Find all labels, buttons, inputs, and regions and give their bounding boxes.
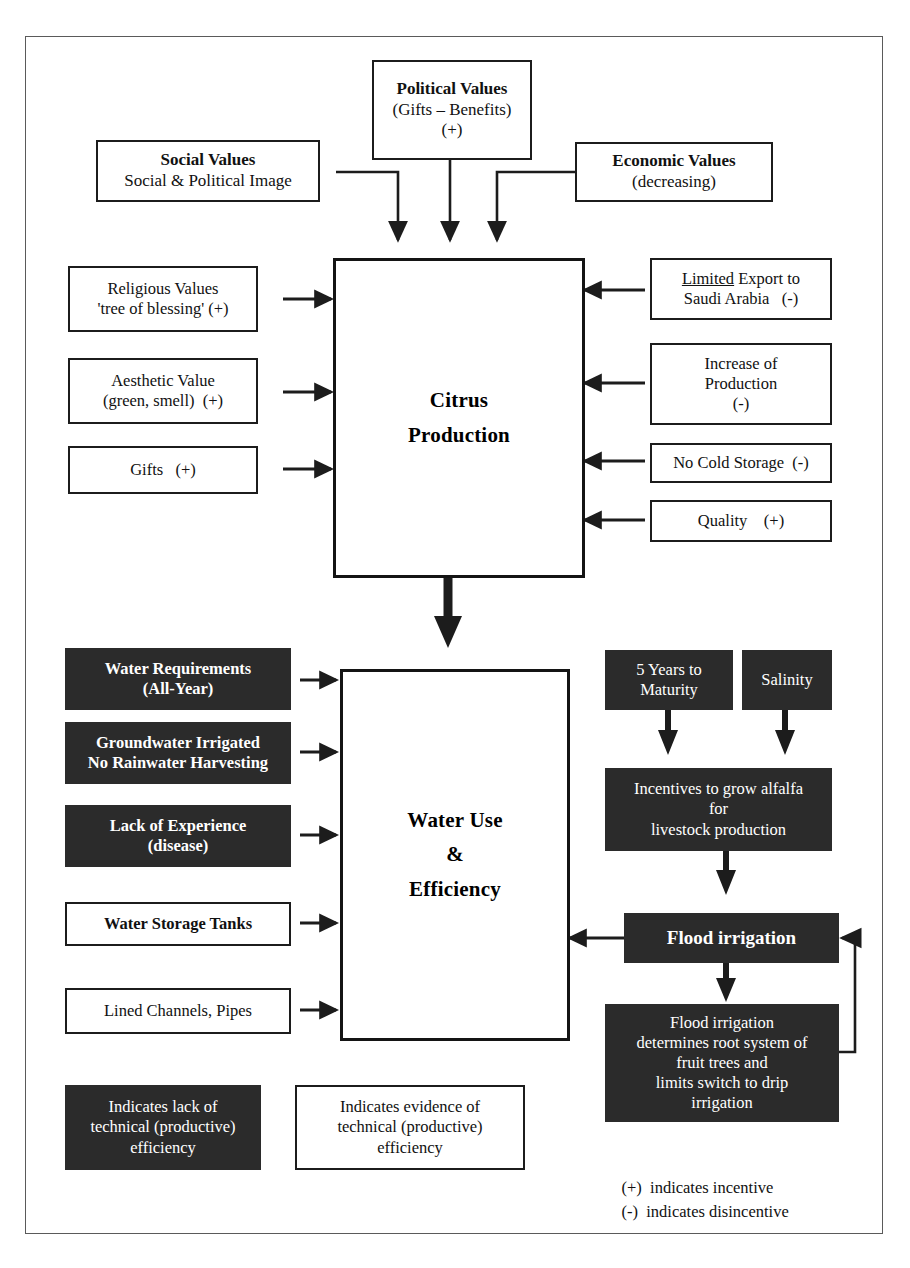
hub-line: Citrus <box>408 388 510 414</box>
box-line: Aesthetic Value <box>111 371 215 391</box>
box-water-storage-tanks[interactable]: Water Storage Tanks <box>65 902 291 946</box>
box-line: Indicates lack of <box>108 1097 217 1117</box>
box-line: (All-Year) <box>143 679 214 699</box>
box-line: Maturity <box>640 680 698 700</box>
box-line: for <box>709 799 728 819</box>
box-line: Limited Export to <box>682 269 800 289</box>
box-groundwater-irrigated[interactable]: Groundwater Irrigated No Rainwater Harve… <box>65 722 291 784</box>
box-line: Indicates evidence of <box>340 1097 480 1117</box>
box-line: limits switch to drip <box>656 1073 788 1093</box>
box-line: (green, smell) (+) <box>103 391 223 411</box>
hub-label: Citrus Production <box>408 379 510 457</box>
underlined-word: Limited <box>682 269 734 288</box>
box-increase-of-production[interactable]: Increase of Production (-) <box>650 343 832 425</box>
legend-dark-key: Indicates lack of technical (productive)… <box>65 1085 261 1170</box>
box-five-years-to-maturity[interactable]: 5 Years to Maturity <box>605 650 733 710</box>
box-line: technical (productive) <box>90 1117 235 1137</box>
box-line: technical (productive) <box>337 1117 482 1137</box>
box-gifts[interactable]: Gifts (+) <box>68 446 258 494</box>
box-flood-irrigation-effects[interactable]: Flood irrigation determines root system … <box>605 1004 839 1122</box>
box-religious-values[interactable]: Religious Values 'tree of blessing' (+) <box>68 266 258 332</box>
legend-note-line: (-) indicates disincentive <box>622 1202 789 1221</box>
box-line: livestock production <box>651 820 786 840</box>
box-political-values[interactable]: Political Values (Gifts – Benefits) (+) <box>372 60 532 160</box>
box-line: determines root system of <box>637 1033 808 1053</box>
box-line: Incentives to grow alfalfa <box>634 779 803 799</box>
box-line: Salinity <box>761 670 812 690</box>
box-incentives-alfalfa[interactable]: Incentives to grow alfalfa for livestock… <box>605 768 832 851</box>
hub-line: Water Use <box>407 808 502 834</box>
box-salinity[interactable]: Salinity <box>742 650 832 710</box>
box-line: irrigation <box>691 1093 752 1113</box>
box-line: No Cold Storage (-) <box>673 453 809 473</box>
box-line: Water Storage Tanks <box>104 914 252 934</box>
hub-line: Production <box>408 423 510 449</box>
box-line: Flood irrigation <box>667 926 796 949</box>
box-line: Lined Channels, Pipes <box>104 1001 252 1021</box>
legend-light-key: Indicates evidence of technical (product… <box>295 1085 525 1170</box>
box-water-requirements[interactable]: Water Requirements (All-Year) <box>65 648 291 710</box>
box-line: (-) <box>733 394 749 414</box>
box-line: Quality (+) <box>698 511 784 531</box>
box-line-rest: Export to <box>734 269 800 288</box>
box-line: (disease) <box>148 836 209 856</box>
box-lack-of-experience[interactable]: Lack of Experience (disease) <box>65 805 291 867</box>
box-line: (decreasing) <box>632 172 716 193</box>
box-line: efficiency <box>377 1138 443 1158</box>
box-line: fruit trees and <box>676 1053 768 1073</box>
legend-note-disincentive: (-) indicates disincentive <box>605 1176 789 1248</box>
box-line: Saudi Arabia (-) <box>684 289 799 309</box>
box-limited-export[interactable]: Limited Export to Saudi Arabia (-) <box>650 258 832 320</box>
box-line: 5 Years to <box>636 660 702 680</box>
box-line: No Rainwater Harvesting <box>88 753 268 773</box>
box-quality[interactable]: Quality (+) <box>650 500 832 542</box>
box-line: Water Requirements <box>105 659 252 679</box>
box-line: Lack of Experience <box>110 816 247 836</box>
box-lined-channels-pipes[interactable]: Lined Channels, Pipes <box>65 988 291 1034</box>
box-aesthetic-value[interactable]: Aesthetic Value (green, smell) (+) <box>68 358 258 424</box>
hub-citrus-production[interactable]: Citrus Production <box>333 258 585 578</box>
box-line: Political Values <box>397 79 508 100</box>
box-line: Economic Values <box>612 151 735 172</box>
box-line: Social & Political Image <box>124 171 292 192</box>
diagram-page: Social Values Social & Political Image P… <box>0 0 910 1268</box>
box-line: efficiency <box>130 1138 196 1158</box>
box-line: (+) <box>442 120 463 141</box>
box-social-values[interactable]: Social Values Social & Political Image <box>96 140 320 202</box>
box-line: Increase of <box>705 354 778 374</box>
box-line: Gifts (+) <box>130 460 196 480</box>
hub-water-use-efficiency[interactable]: Water Use & Efficiency <box>340 669 570 1041</box>
box-flood-irrigation[interactable]: Flood irrigation <box>624 913 839 963</box>
box-line: Social Values <box>161 150 256 171</box>
box-no-cold-storage[interactable]: No Cold Storage (-) <box>650 443 832 483</box>
hub-line: & <box>407 842 502 868</box>
box-line: Flood irrigation <box>670 1013 774 1033</box>
hub-label: Water Use & Efficiency <box>407 799 502 912</box>
box-line: 'tree of blessing' (+) <box>97 299 228 319</box>
box-line: Religious Values <box>107 279 218 299</box>
box-line: Production <box>705 374 777 394</box>
box-economic-values[interactable]: Economic Values (decreasing) <box>575 142 773 202</box>
box-line: Groundwater Irrigated <box>96 733 260 753</box>
box-line: (Gifts – Benefits) <box>393 100 512 121</box>
hub-line: Efficiency <box>407 877 502 903</box>
